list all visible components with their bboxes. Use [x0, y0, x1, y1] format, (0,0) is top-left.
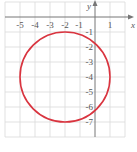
svg-text:-6: -6: [86, 102, 94, 112]
circle-graph: x y -5 -4 -3 -2 -1 1 -1 -2 -3 -4 -5 -6 -…: [0, 0, 137, 152]
y-axis-label: y: [86, 1, 91, 11]
x-axis-label: x: [130, 20, 135, 30]
svg-text:-4: -4: [31, 20, 39, 30]
x-axis-arrow-icon: [128, 15, 134, 20]
svg-text:-4: -4: [86, 72, 94, 82]
svg-text:-3: -3: [46, 20, 54, 30]
svg-text:-7: -7: [86, 117, 94, 127]
y-axis-arrow-icon: [93, 0, 98, 6]
svg-text:-5: -5: [86, 87, 94, 97]
svg-text:1: 1: [108, 20, 113, 30]
svg-text:-1: -1: [86, 27, 94, 37]
svg-text:-5: -5: [16, 20, 24, 30]
x-tick-labels: -5 -4 -3 -2 -1 1: [16, 20, 112, 30]
svg-text:-3: -3: [86, 57, 94, 67]
svg-text:-2: -2: [61, 20, 69, 30]
svg-text:-1: -1: [75, 20, 83, 30]
svg-text:-2: -2: [86, 42, 94, 52]
